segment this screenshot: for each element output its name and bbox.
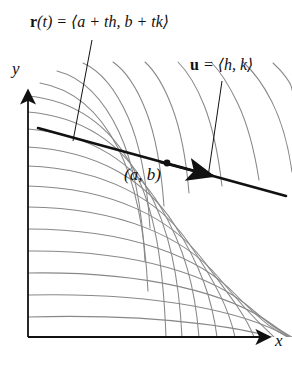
label-point-ab: (a, b) [124,166,161,183]
point-ab-dot [164,160,171,167]
label-r-components: ⟨a + th, b + tk⟩ [71,13,169,30]
label-r-arg: (t) = [37,13,71,30]
leader-line-u [208,81,222,177]
label-direction-vector: u = ⟨h, k⟩ [190,57,253,73]
contour-level-curves [28,62,292,362]
label-u-arg: = [199,56,218,73]
label-x-axis: x [275,332,283,349]
directional-derivative-figure: r(t) = ⟨a + th, b + tk⟩ u = ⟨h, k⟩ (a, b… [0,0,292,371]
label-y-axis: y [12,60,20,77]
label-u-components: ⟨h, k⟩ [218,56,254,73]
label-vector-function: r(t) = ⟨a + th, b + tk⟩ [30,14,169,30]
label-u-bold: u [190,56,199,73]
